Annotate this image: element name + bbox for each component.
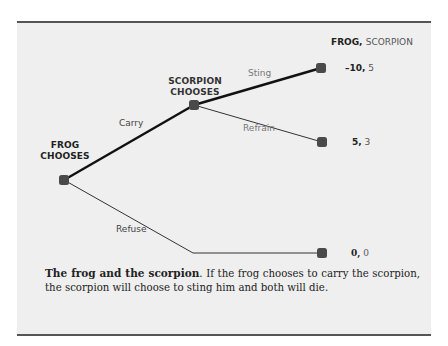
frog-node-icon <box>59 175 69 185</box>
payoff-header: FROG, SCORPION <box>331 37 413 47</box>
refrain-label: Refrain <box>243 123 275 133</box>
frog-chooses-label: FROG CHOOSES <box>40 140 90 162</box>
figure-caption: The frog and the scorpion. If the frog c… <box>45 266 420 295</box>
caption-title: The frog and the scorpion <box>45 267 199 279</box>
sting-terminal-node-icon <box>316 63 326 73</box>
refuse-terminal-node-icon <box>317 248 327 258</box>
payoff-sting: –10, 5 <box>345 63 374 73</box>
refuse-branch <box>64 180 193 253</box>
scorpion-node-icon <box>189 100 199 110</box>
refuse-label: Refuse <box>116 224 147 234</box>
header-frog: FROG, <box>331 37 363 47</box>
payoff-refuse-scorpion: 0 <box>363 248 369 258</box>
scorpion-label-line1: SCORPION <box>164 76 226 87</box>
payoff-refuse-frog: 0, <box>351 248 360 258</box>
frog-label-line2: CHOOSES <box>40 151 90 162</box>
scorpion-chooses-label: SCORPION CHOOSES <box>164 76 226 98</box>
payoff-refuse: 0, 0 <box>351 248 369 258</box>
scorpion-label-line2: CHOOSES <box>164 87 226 98</box>
frog-label-line1: FROG <box>40 140 90 151</box>
payoff-refrain-frog: 5, <box>352 137 362 147</box>
refrain-terminal-node-icon <box>317 137 327 147</box>
payoff-sting-scorpion: 5 <box>368 63 374 73</box>
header-scorpion: SCORPION <box>366 37 413 47</box>
payoff-refrain-scorpion: 3 <box>365 137 371 147</box>
sting-label: Sting <box>248 68 271 78</box>
payoff-refrain: 5, 3 <box>352 137 370 147</box>
carry-label: Carry <box>119 118 143 128</box>
payoff-sting-frog: –10, <box>345 63 365 73</box>
